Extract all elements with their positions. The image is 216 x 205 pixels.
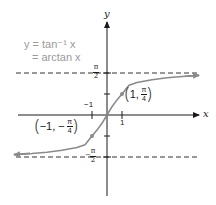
y-axis-label: y (104, 8, 110, 19)
tick-label-neg-1: −1 (84, 100, 93, 109)
function-label-line2: = arctan x (24, 51, 81, 64)
asymptote-lower-label: π − 2 (90, 148, 96, 164)
x-axis-label: x (203, 108, 209, 119)
point-label-negative: ( −1, − π4 ) (34, 116, 78, 136)
point-label-positive: ( 1, π4 ) (124, 84, 153, 104)
asymptote-upper-label: π 2 (93, 64, 99, 80)
function-label-line1: y = tan⁻¹ x (24, 38, 81, 51)
arctan-graph (0, 0, 216, 205)
function-label: y = tan⁻¹ x = arctan x (24, 38, 81, 64)
tick-label-x-1: 1 (120, 118, 124, 127)
point-neg1-neg-pi-over-4 (90, 134, 94, 138)
